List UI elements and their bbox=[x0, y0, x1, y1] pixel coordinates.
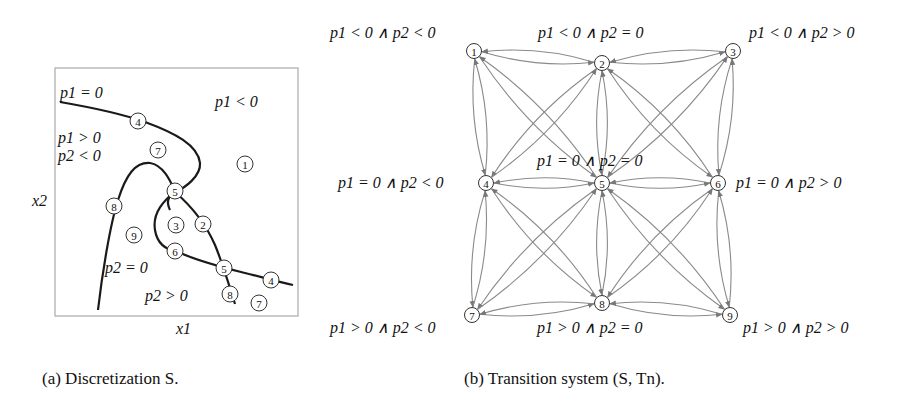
edge-5-7 bbox=[478, 189, 597, 310]
state-node-6: 6 bbox=[711, 176, 726, 191]
figure-canvas: p1 = 0 p1 < 0 p1 > 0 p2 < 0 p2 = 0 p2 > … bbox=[0, 0, 909, 410]
edge-8-6 bbox=[608, 189, 713, 297]
edge-6-5 bbox=[610, 178, 710, 183]
region-marker-label: 5 bbox=[221, 263, 227, 275]
region-marker: 4 bbox=[130, 113, 146, 129]
region-marker: 5 bbox=[216, 260, 232, 276]
edge-5-9 bbox=[608, 189, 725, 310]
region-marker-label: 9 bbox=[131, 230, 137, 242]
region-marker-label: 7 bbox=[256, 298, 262, 310]
region-marker: 8 bbox=[222, 286, 238, 302]
label-p1-lt-0: p1 < 0 bbox=[214, 93, 258, 111]
state-node-5: 5 bbox=[595, 176, 610, 191]
label-p2-gt-0: p2 > 0 bbox=[144, 287, 188, 305]
edge-4-8 bbox=[492, 189, 597, 297]
region-marker-label: 3 bbox=[173, 220, 179, 232]
state-nodes: 123456789 bbox=[465, 44, 741, 323]
region-marker: 3 bbox=[168, 217, 184, 233]
y-axis-label: x2 bbox=[31, 192, 47, 209]
label-p2-eq-0: p2 = 0 bbox=[104, 259, 148, 277]
region-marker: 9 bbox=[126, 227, 142, 243]
label-p1-gt-0: p1 > 0 bbox=[57, 129, 101, 147]
state-node-id: 7 bbox=[469, 310, 475, 322]
state-node-2: 2 bbox=[595, 56, 610, 71]
label-node-3: p1 < 0 ∧ p2 > 0 bbox=[748, 24, 855, 42]
region-marker: 2 bbox=[195, 216, 211, 232]
region-marker: 1 bbox=[237, 156, 253, 172]
state-node-8: 8 bbox=[595, 296, 610, 311]
state-node-id: 1 bbox=[471, 46, 477, 58]
state-node-4: 4 bbox=[479, 176, 494, 191]
region-marker-label: 8 bbox=[111, 201, 117, 213]
edge-9-5 bbox=[608, 189, 725, 310]
region-marker: 4 bbox=[263, 272, 279, 288]
state-node-9: 9 bbox=[723, 308, 738, 323]
label-p2-lt-0: p2 < 0 bbox=[57, 147, 101, 165]
label-node-2: p1 < 0 ∧ p2 = 0 bbox=[537, 24, 644, 42]
panel-a-discretization: p1 = 0 p1 < 0 p1 > 0 p2 < 0 p2 = 0 p2 > … bbox=[31, 68, 298, 388]
state-node-id: 4 bbox=[483, 178, 489, 190]
region-marker-label: 4 bbox=[268, 275, 274, 287]
region-marker: 6 bbox=[167, 243, 183, 259]
state-node-3: 3 bbox=[726, 44, 741, 59]
state-node-id: 5 bbox=[599, 178, 605, 190]
label-node-6: p1 = 0 ∧ p2 > 0 bbox=[735, 174, 842, 192]
state-node-id: 2 bbox=[599, 58, 605, 70]
region-markers: 4715832965487 bbox=[106, 113, 279, 311]
label-node-1: p1 < 0 ∧ p2 < 0 bbox=[329, 24, 436, 42]
label-node-8: p1 > 0 ∧ p2 = 0 bbox=[536, 319, 643, 337]
label-node-4: p1 = 0 ∧ p2 < 0 bbox=[337, 174, 444, 192]
region-marker-label: 8 bbox=[227, 289, 233, 301]
edge-5-4 bbox=[494, 178, 594, 183]
x-axis-label: x1 bbox=[175, 320, 191, 337]
region-marker-label: 2 bbox=[200, 219, 206, 231]
state-node-id: 9 bbox=[727, 310, 733, 322]
state-node-id: 8 bbox=[599, 298, 605, 310]
caption-b: (b) Transition system (S, Tn). bbox=[464, 369, 665, 388]
state-node-7: 7 bbox=[465, 308, 480, 323]
edge-4-5 bbox=[494, 183, 594, 188]
region-marker-label: 1 bbox=[242, 159, 248, 171]
region-marker: 7 bbox=[150, 142, 166, 158]
region-marker: 5 bbox=[167, 183, 183, 199]
label-p1-eq-0: p1 = 0 bbox=[59, 84, 103, 102]
edge-6-8 bbox=[608, 189, 713, 297]
region-marker-label: 7 bbox=[155, 145, 161, 157]
edge-8-4 bbox=[492, 189, 597, 297]
label-node-7: p1 > 0 ∧ p2 < 0 bbox=[329, 319, 436, 337]
region-marker-label: 4 bbox=[135, 116, 141, 128]
label-node-9: p1 > 0 ∧ p2 > 0 bbox=[742, 319, 849, 337]
panel-b-transition-system: 123456789 p1 < 0 ∧ p2 < 0 p1 < 0 ∧ p2 = … bbox=[329, 24, 855, 388]
edge-3-6 bbox=[718, 59, 732, 175]
edge-5-6 bbox=[610, 183, 710, 188]
edge-7-5 bbox=[478, 189, 597, 310]
edge-5-8 bbox=[597, 191, 602, 295]
region-marker-label: 6 bbox=[172, 246, 178, 258]
state-node-id: 3 bbox=[730, 46, 736, 58]
region-marker: 8 bbox=[106, 198, 122, 214]
caption-a: (a) Discretization S. bbox=[42, 369, 178, 388]
edge-6-3 bbox=[719, 59, 733, 175]
state-node-id: 6 bbox=[715, 178, 721, 190]
state-node-1: 1 bbox=[467, 44, 482, 59]
edge-8-5 bbox=[602, 191, 607, 295]
label-node-5: p1 = 0 ∧ p2 = 0 bbox=[536, 152, 643, 170]
region-marker-label: 5 bbox=[172, 186, 178, 198]
region-marker: 7 bbox=[251, 295, 267, 311]
